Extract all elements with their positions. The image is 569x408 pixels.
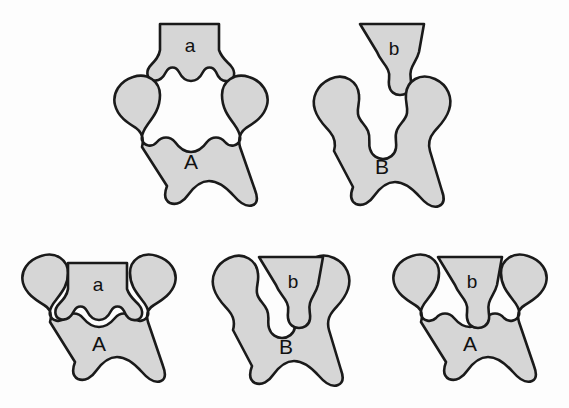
key-b-label-top: b: [389, 38, 400, 59]
lock-a-label-bottom-left: A: [92, 332, 106, 355]
lock-a-label-top: A: [184, 150, 198, 173]
panel-a-in-a: a A: [22, 255, 175, 382]
panel-b-separate: b B: [314, 24, 451, 207]
panel-a-separate: a A: [114, 24, 267, 206]
key-b-label-bottom-right: b: [467, 271, 478, 292]
lock-b-shape-top: [314, 77, 451, 207]
key-a-label-top: a: [185, 35, 196, 56]
key-b-label-bottom-middle: b: [288, 271, 299, 292]
lock-a-label-bottom-right: A: [463, 332, 477, 355]
panel-b-in-b: b B: [213, 256, 350, 386]
panel-b-in-a: b A: [393, 255, 546, 382]
lock-b-label-bottom-middle: B: [279, 335, 293, 358]
diagram-canvas: a A b B a A: [0, 0, 569, 408]
key-a-label-bottom-left: a: [93, 274, 104, 295]
lock-b-label-top: B: [375, 155, 389, 178]
figure-root: a A b B a A: [0, 0, 569, 408]
lock-a-shape-top: [114, 76, 267, 206]
